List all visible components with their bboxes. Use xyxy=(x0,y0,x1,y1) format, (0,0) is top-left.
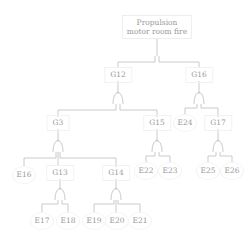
event-e26: E26 xyxy=(220,162,244,180)
gate-g13 xyxy=(55,179,65,200)
top-event-line2: motor room fire xyxy=(127,27,187,36)
event-e24: E24 xyxy=(173,114,197,132)
connector-g12 xyxy=(58,104,157,117)
top-event: Propulsion motor room fire xyxy=(122,15,192,39)
event-e17: E17 xyxy=(30,212,54,230)
gate-g3 xyxy=(53,129,63,152)
event-e22: E22 xyxy=(134,162,158,180)
top-event-line1: Propulsion xyxy=(127,18,187,27)
gate-g14 xyxy=(111,179,121,200)
gate-g17 xyxy=(213,129,223,152)
event-e25: E25 xyxy=(196,162,220,180)
gate-g3: G3 xyxy=(47,115,70,131)
event-e16: E16 xyxy=(12,166,36,184)
gate-g14: G14 xyxy=(102,165,130,181)
event-e23: E23 xyxy=(158,162,182,180)
event-e21: E21 xyxy=(128,212,152,230)
gate-g15: G15 xyxy=(143,115,171,131)
connector-g13 xyxy=(42,200,68,213)
gate-g15 xyxy=(152,129,162,152)
gate-g13: G13 xyxy=(46,165,74,181)
event-e19: E19 xyxy=(82,212,106,230)
gate-g12 xyxy=(113,81,123,104)
gate-g16 xyxy=(194,81,204,104)
event-e18: E18 xyxy=(56,212,80,230)
gate-g12: G12 xyxy=(104,67,132,83)
gate-g17: G17 xyxy=(204,115,232,131)
event-e20: E20 xyxy=(105,212,129,230)
connector-top xyxy=(118,38,199,68)
gate-g16: G16 xyxy=(185,67,213,83)
